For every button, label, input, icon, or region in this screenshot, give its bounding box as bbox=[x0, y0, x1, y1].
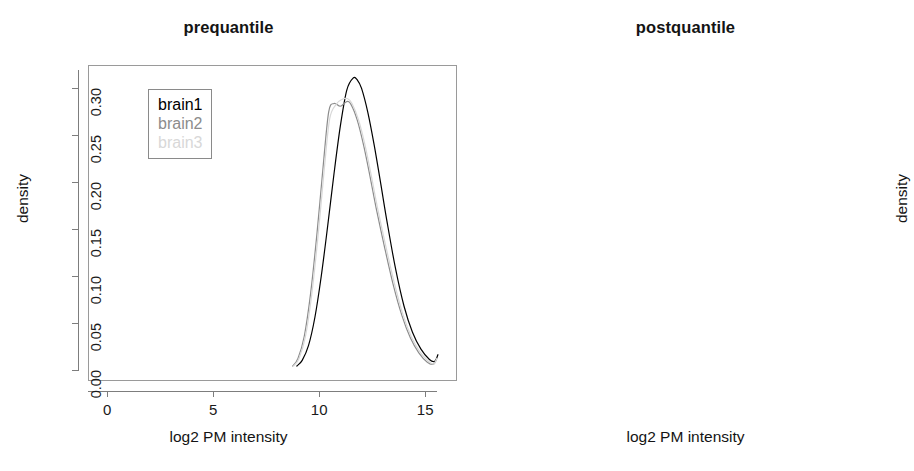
x-axis-title: log2 PM intensity bbox=[457, 428, 914, 446]
legend: brain1 brain2 brain3 bbox=[148, 89, 212, 159]
panel-postquantile: postquantile log2 PM intensity density b… bbox=[457, 0, 914, 471]
y-tick-label: 0.05 bbox=[88, 323, 104, 351]
x-tick-mark bbox=[319, 391, 320, 397]
y-tick-label: 0.20 bbox=[88, 182, 104, 210]
y-tick-mark bbox=[72, 276, 78, 277]
density-curve-brain3 bbox=[294, 99, 437, 366]
x-tick-mark bbox=[107, 391, 108, 397]
x-axis-title: log2 PM intensity bbox=[0, 428, 457, 446]
page-title-postquantile: postquantile bbox=[457, 18, 914, 37]
y-tick-label: 0.10 bbox=[88, 276, 104, 304]
x-tick-label: 0 bbox=[103, 401, 111, 418]
y-tick-mark bbox=[72, 229, 78, 230]
legend-item-brain2: brain2 bbox=[158, 114, 202, 133]
y-axis-title: density bbox=[14, 174, 32, 223]
plot-area-prequantile bbox=[88, 65, 457, 381]
y-tick-mark bbox=[72, 323, 78, 324]
y-tick-mark bbox=[72, 182, 78, 183]
y-tick-mark bbox=[72, 135, 78, 136]
x-tick-label: 15 bbox=[417, 401, 434, 418]
x-axis-line bbox=[88, 391, 437, 392]
page-title-prequantile: prequantile bbox=[0, 18, 457, 37]
y-tick-label: 0.15 bbox=[88, 229, 104, 257]
x-tick-label: 10 bbox=[311, 401, 328, 418]
x-tick-mark bbox=[425, 391, 426, 397]
x-tick-mark bbox=[213, 391, 214, 397]
y-axis-line bbox=[78, 70, 79, 371]
x-tick-label: 5 bbox=[209, 401, 217, 418]
y-tick-mark bbox=[72, 370, 78, 371]
y-axis-title: density bbox=[893, 174, 911, 223]
panel-prequantile: prequantile log2 PM intensity density br… bbox=[0, 0, 457, 471]
y-tick-label: 0.25 bbox=[88, 135, 104, 163]
legend-item-brain1: brain1 bbox=[158, 95, 202, 114]
density-plot-figure: prequantile log2 PM intensity density br… bbox=[0, 0, 914, 471]
y-tick-label: 0.30 bbox=[88, 88, 104, 116]
y-tick-label: 0.00 bbox=[88, 370, 104, 398]
y-tick-mark bbox=[72, 88, 78, 89]
density-curves-prequantile bbox=[88, 65, 457, 381]
legend-item-brain3: brain3 bbox=[158, 133, 202, 152]
